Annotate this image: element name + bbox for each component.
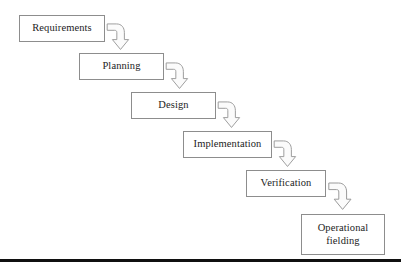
stage-box-planning: Planning (79, 53, 164, 80)
waterfall-diagram: RequirementsPlanningDesignImplementation… (0, 0, 401, 268)
arrow-planning-to-design (165, 61, 189, 90)
stage-box-operational-fielding: Operational fielding (301, 214, 385, 255)
stage-box-design: Design (131, 92, 216, 119)
stage-label: Planning (102, 60, 140, 72)
stage-label: Requirements (32, 22, 92, 34)
curved-down-arrow-icon (106, 22, 130, 51)
stage-label: Implementation (194, 138, 262, 150)
curved-down-arrow-icon (273, 139, 297, 168)
curved-down-arrow-icon (328, 180, 352, 212)
stage-box-implementation: Implementation (183, 131, 272, 158)
curved-down-arrow-icon (217, 100, 241, 129)
arrow-design-to-implementation (217, 100, 241, 129)
stage-label: Verification (261, 177, 312, 189)
stage-box-requirements: Requirements (19, 15, 105, 42)
stage-box-verification: Verification (246, 170, 326, 197)
bottom-divider-rule (0, 259, 401, 262)
stage-label: Operational fielding (318, 222, 369, 247)
stage-label: Design (158, 99, 188, 111)
arrow-verification-to-operational-fielding (328, 180, 352, 212)
arrow-implementation-to-verification (273, 139, 297, 168)
arrow-requirements-to-planning (106, 22, 130, 51)
curved-down-arrow-icon (165, 61, 189, 90)
